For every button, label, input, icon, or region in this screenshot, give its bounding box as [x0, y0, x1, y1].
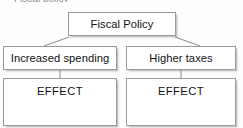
node-increased-spending: Increased spending: [3, 46, 117, 70]
node-higher-taxes: Higher taxes: [126, 46, 236, 70]
node-effect-left-label: EFFECT: [37, 79, 83, 98]
node-effect-right: EFFECT: [126, 78, 236, 126]
node-fiscal-policy-label: Fiscal Policy: [91, 18, 154, 31]
connector-root-to-left: [44, 37, 69, 46]
node-fiscal-policy: Fiscal Policy: [68, 12, 176, 36]
connector-root-to-right: [175, 37, 200, 46]
clipped-caption-text: Fiscal policy: [14, 0, 134, 2]
node-effect-right-label: EFFECT: [158, 79, 204, 98]
node-increased-spending-label: Increased spending: [11, 52, 110, 65]
node-higher-taxes-label: Higher taxes: [149, 52, 212, 65]
node-effect-left: EFFECT: [3, 78, 117, 126]
fiscal-policy-flowchart: Fiscal policy Fiscal Policy Increased sp…: [0, 0, 243, 128]
